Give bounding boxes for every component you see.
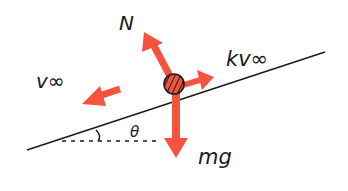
gravity-label: mg [198, 145, 232, 169]
gravity-arrow [164, 92, 188, 158]
angle-arc [96, 130, 100, 141]
normal-force-arrow [142, 32, 172, 80]
drag-force-label: kv∞ [226, 47, 268, 71]
angle-label: θ [130, 123, 139, 141]
velocity-label: v∞ [36, 69, 65, 93]
normal-force-label: N [119, 11, 134, 35]
free-body-diagram: N kv∞ v∞ mg θ [0, 0, 348, 191]
drag-force-arrow [180, 70, 214, 90]
velocity-arrow [82, 86, 120, 106]
ball [164, 74, 184, 94]
